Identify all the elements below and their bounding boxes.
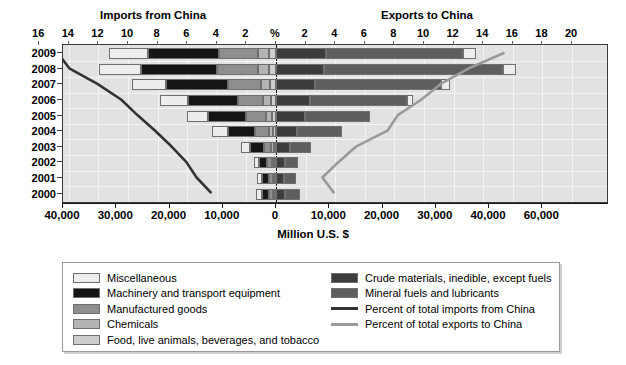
legend-item: Manufactured goods — [73, 301, 319, 317]
value-tick-label: 0 — [272, 209, 278, 221]
value-tick-mark — [382, 203, 383, 208]
legend-label: Chemicals — [107, 318, 158, 330]
year-label: 2001 — [22, 172, 56, 184]
axis-title: Million U.S. $ — [0, 228, 626, 240]
legend-color-swatch — [73, 304, 100, 314]
percent-tick-mark — [38, 41, 39, 45]
percent-tick-mark — [216, 41, 217, 45]
percent-tick-label: 10 — [417, 27, 429, 39]
percent-tick-mark — [186, 41, 187, 45]
year-label: 2004 — [22, 125, 56, 137]
percent-tick-mark — [482, 41, 483, 45]
legend-label: Machinery and transport equipment — [107, 287, 280, 299]
percent-tick-label: 6 — [361, 27, 367, 39]
legend-color-swatch — [73, 319, 100, 329]
value-tick-label: 40,000 — [44, 209, 79, 221]
percent-tick-mark — [68, 41, 69, 45]
value-tick-mark — [275, 203, 276, 208]
percent-tick-mark — [275, 41, 276, 45]
year-label: 2009 — [22, 47, 56, 59]
year-label: 2007 — [22, 78, 56, 90]
percent-tick-label: 16 — [32, 27, 44, 39]
percent-lines-overlay — [62, 44, 608, 203]
value-tick-label: 30,000 — [417, 209, 452, 221]
value-tick-mark — [488, 203, 489, 208]
value-tick-mark — [435, 203, 436, 208]
percent-tick-label: 4 — [213, 27, 219, 39]
year-tick-mark — [57, 146, 62, 147]
percent-tick-mark — [512, 41, 513, 45]
value-tick-mark — [222, 203, 223, 208]
legend-label: Crude materials, inedible, except fuels — [365, 272, 551, 284]
year-label: 2006 — [22, 94, 56, 106]
percent-tick-label: 8 — [154, 27, 160, 39]
value-tick-mark — [115, 203, 116, 208]
percent-tick-label: 14 — [476, 27, 488, 39]
value-tick-mark — [328, 203, 329, 208]
value-tick-mark — [62, 203, 63, 208]
percent-tick-label: 6 — [183, 27, 189, 39]
legend-item: Mineral fuels and lubricants — [331, 286, 551, 302]
percent-tick-label: 4 — [331, 27, 337, 39]
legend-color-swatch — [331, 273, 358, 283]
plot-area — [62, 44, 608, 203]
legend-label: Percent of total exports to China — [365, 318, 522, 330]
year-label: 2000 — [22, 188, 56, 200]
percent-tick-mark — [334, 41, 335, 45]
legend-column-left: MiscellaneousMachinery and transport equ… — [73, 270, 319, 348]
imports-percent-line — [62, 53, 211, 193]
percent-tick-mark — [453, 41, 454, 45]
year-tick-mark — [57, 83, 62, 84]
percent-tick-mark — [127, 41, 128, 45]
legend-item: Machinery and transport equipment — [73, 286, 319, 302]
year-label: 2002 — [22, 156, 56, 168]
percent-tick-label: 20 — [565, 27, 577, 39]
legend-label: Food, live animals, beverages, and tobac… — [107, 334, 319, 346]
percent-tick-mark — [157, 41, 158, 45]
exports-percent-line — [322, 53, 504, 193]
percent-tick-mark — [97, 41, 98, 45]
percent-tick-mark — [423, 41, 424, 45]
legend-item: Percent of total exports to China — [331, 317, 551, 333]
legend: MiscellaneousMachinery and transport equ… — [62, 262, 560, 352]
value-axis-line — [62, 203, 608, 204]
legend-item: Crude materials, inedible, except fuels — [331, 270, 551, 286]
percent-tick-label: 8 — [390, 27, 396, 39]
percent-tick-label: 10 — [121, 27, 133, 39]
percent-tick-label: 2 — [242, 27, 248, 39]
percent-axis: 161412108642%2468101214161820 — [0, 27, 626, 42]
legend-line-swatch — [331, 323, 358, 326]
percent-tick-label: 14 — [62, 27, 74, 39]
legend-color-swatch — [73, 288, 100, 298]
percent-tick-mark — [393, 41, 394, 45]
legend-color-swatch — [73, 335, 100, 345]
year-tick-mark — [57, 130, 62, 131]
legend-line-swatch — [331, 307, 358, 310]
year-tick-mark — [57, 115, 62, 116]
year-label: 2003 — [22, 141, 56, 153]
percent-tick-label: 12 — [91, 27, 103, 39]
legend-column-right: Crude materials, inedible, except fuelsM… — [331, 270, 551, 332]
value-tick-mark — [169, 203, 170, 208]
percent-tick-label: % — [270, 27, 280, 39]
year-tick-mark — [57, 193, 62, 194]
value-tick-label: 20,000 — [151, 209, 186, 221]
percent-tick-mark — [571, 41, 572, 45]
imports-section-title: Imports from China — [100, 9, 206, 21]
year-tick-mark — [57, 99, 62, 100]
value-tick-label: 40,000 — [470, 209, 505, 221]
value-tick-label: 20,000 — [364, 209, 399, 221]
value-tick-label: 60,000 — [524, 209, 559, 221]
legend-label: Mineral fuels and lubricants — [365, 287, 499, 299]
year-tick-mark — [57, 161, 62, 162]
legend-item: Percent of total imports from China — [331, 301, 551, 317]
percent-tick-mark — [245, 41, 246, 45]
legend-item: Miscellaneous — [73, 270, 319, 286]
value-tick-label: 30,000 — [98, 209, 133, 221]
year-label: 2008 — [22, 63, 56, 75]
legend-color-swatch — [331, 288, 358, 298]
percent-tick-label: 18 — [535, 27, 547, 39]
percent-tick-label: 16 — [506, 27, 518, 39]
percent-tick-mark — [305, 41, 306, 45]
value-tick-label: 10,000 — [311, 209, 346, 221]
